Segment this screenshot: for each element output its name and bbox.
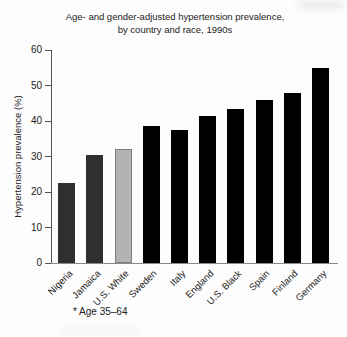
y-tick-label: 0 [16,257,42,268]
y-axis-line [51,50,52,264]
chart-title-line-2: by country and race, 1990s [8,23,342,36]
y-tick-mark [45,121,51,122]
bar-jamaica [86,155,103,263]
bar-sweden [143,126,160,263]
hypertension-bar-chart: Age- and gender-adjusted hypertension pr… [0,0,347,337]
y-tick-label: 30 [16,151,42,162]
bar-spain [256,100,273,263]
y-tick-label: 20 [16,186,42,197]
bar-england [199,116,216,263]
bar-germany [312,68,329,263]
y-tick-label: 10 [16,222,42,233]
y-tick-label: 60 [16,44,42,55]
bar-italy [171,130,188,263]
bar-finland [284,93,301,263]
y-tick-mark [45,192,51,193]
y-tick-label: 50 [16,80,42,91]
bar-nigeria [58,183,75,263]
y-tick-mark [45,227,51,228]
scan-artifact-top-right [297,0,345,10]
chart-title-line-1: Age- and gender-adjusted hypertension pr… [8,10,342,23]
chart-title: Age- and gender-adjusted hypertension pr… [8,10,342,36]
y-tick-mark [45,85,51,86]
y-tick-mark [45,50,51,51]
bar-u-s-white [115,149,132,263]
footnote: * Age 35–64 [73,306,128,317]
y-tick-mark [45,263,51,264]
y-tick-label: 40 [16,115,42,126]
plot-area: 0102030405060NigeriaJamaicaU.S. WhiteSwe… [52,50,337,263]
y-tick-mark [45,156,51,157]
bar-u-s-black [227,109,244,263]
x-axis-line [51,263,338,264]
